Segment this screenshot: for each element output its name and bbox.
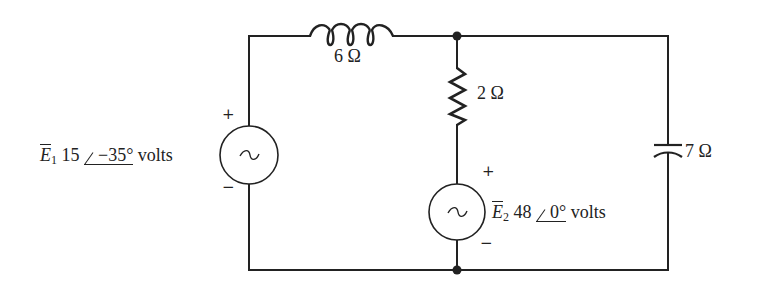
resistor-symbol — [450, 68, 465, 125]
e1-unit: volts — [138, 145, 173, 165]
e2-unit: volts — [571, 202, 606, 222]
capacitor-label: 7 Ω — [685, 142, 712, 160]
inductor-label: 6 Ω — [334, 47, 361, 65]
e2-minus-sign: − — [480, 236, 493, 251]
e1-symbol: E — [40, 145, 51, 165]
e2-subscript: 2 — [503, 210, 509, 224]
resistor-label: 2 Ω — [477, 84, 504, 102]
e2-magnitude: 48 — [514, 202, 532, 222]
node-bottom — [453, 266, 462, 275]
node-top — [453, 32, 462, 41]
e1-plus-sign: + — [222, 107, 235, 122]
source-e2-symbol — [429, 184, 485, 240]
inductor-symbol — [310, 24, 393, 45]
e2-symbol: E — [492, 202, 503, 222]
circuit-diagram: 6 Ω 2 Ω 7 Ω + − E1 15 −35° volts + − E2 … — [0, 0, 761, 298]
source-e2-label: E2 48 0° volts — [492, 203, 606, 223]
source-e1-label: E1 15 −35° volts — [40, 146, 173, 166]
e1-minus-sign: − — [222, 180, 235, 195]
e1-subscript: 1 — [51, 153, 57, 167]
source-e1-symbol — [220, 126, 278, 184]
e1-magnitude: 15 — [62, 145, 80, 165]
e2-plus-sign: + — [482, 164, 495, 179]
e2-angle: 0° — [536, 204, 566, 222]
e1-angle: −35° — [84, 147, 133, 165]
